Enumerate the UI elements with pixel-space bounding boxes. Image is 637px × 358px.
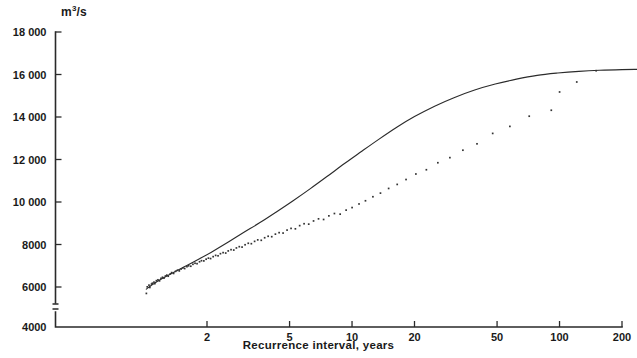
data-point (247, 242, 249, 244)
data-point (509, 126, 511, 128)
data-point (476, 143, 478, 145)
data-point (271, 236, 273, 238)
data-point (148, 284, 150, 286)
fitted-curve-path (146, 69, 637, 289)
data-point (358, 203, 360, 205)
plot-area: 40006000800010 00012 00014 00016 00018 0… (0, 0, 637, 358)
data-point (184, 268, 186, 270)
data-point (194, 262, 196, 264)
data-point (212, 256, 214, 258)
data-point (162, 276, 164, 278)
data-point (156, 280, 158, 282)
data-point (177, 269, 179, 271)
data-point (175, 270, 177, 272)
data-point (437, 162, 439, 164)
data-point (203, 260, 205, 262)
data-point (146, 286, 148, 288)
data-point (220, 253, 222, 255)
data-point (345, 209, 347, 211)
data-point (217, 255, 219, 257)
data-point (167, 275, 169, 277)
data-point (186, 266, 188, 268)
data-point (199, 261, 201, 263)
y-tick-label: 18 000 (13, 26, 47, 38)
axes (53, 32, 623, 327)
data-point (462, 149, 464, 151)
data-point (323, 219, 325, 221)
data-point (559, 91, 561, 93)
data-point (396, 184, 398, 186)
y-tick-label: 4000 (22, 321, 46, 333)
data-point (225, 252, 227, 254)
y-tick-label: 12 000 (13, 154, 47, 166)
data-point (152, 282, 154, 284)
data-point (154, 283, 156, 285)
data-point (159, 280, 161, 282)
data-point (188, 265, 190, 267)
data-point (318, 218, 320, 220)
data-point (313, 220, 315, 222)
data-point (222, 252, 224, 254)
data-point (426, 169, 428, 171)
data-point (295, 228, 297, 230)
data-point (251, 243, 253, 245)
data-point (308, 223, 310, 225)
data-point (290, 228, 292, 230)
data-point (190, 265, 192, 267)
data-point (299, 225, 301, 227)
data-point (286, 229, 288, 231)
data-point (267, 235, 269, 237)
data-point (241, 246, 243, 248)
data-point (149, 287, 151, 289)
data-point (244, 244, 246, 246)
data-point (182, 267, 184, 269)
data-point (339, 213, 341, 215)
data-point (157, 279, 159, 281)
data-point (238, 246, 240, 248)
data-point (171, 272, 173, 274)
data-point (282, 232, 284, 234)
data-point (595, 70, 597, 72)
data-point (163, 277, 165, 279)
data-point (388, 188, 390, 190)
data-point (576, 81, 578, 83)
data-point (254, 241, 256, 243)
data-point (278, 232, 280, 234)
data-point (180, 268, 182, 270)
data-point (160, 277, 162, 279)
data-point (380, 192, 382, 194)
data-point (528, 115, 530, 117)
data-point (210, 258, 212, 260)
data-point (351, 207, 353, 209)
data-point (196, 263, 198, 265)
data-point (275, 233, 277, 235)
data-point (405, 179, 407, 181)
y-tick-label: 6000 (22, 281, 46, 293)
data-point (215, 255, 217, 257)
data-point (205, 258, 207, 260)
data-point (449, 157, 451, 159)
y-tick-labels: 40006000800010 00012 00014 00016 00018 0… (13, 26, 47, 333)
data-point (415, 173, 417, 175)
data-point (334, 213, 336, 215)
data-point (173, 273, 175, 275)
data-point (492, 133, 494, 135)
data-point (230, 249, 232, 251)
data-point (257, 239, 259, 241)
y-tick-label: 16 000 (13, 69, 47, 81)
fitted-curve (146, 69, 637, 289)
data-point (192, 263, 194, 265)
data-point (201, 260, 203, 262)
data-point (365, 200, 367, 202)
y-tick-label: 14 000 (13, 111, 47, 123)
data-point (178, 270, 180, 272)
data-point (260, 239, 262, 241)
data-point (236, 247, 238, 249)
tick-marks (56, 32, 623, 327)
data-point (550, 109, 552, 111)
data-point (328, 215, 330, 217)
y-tick-label: 10 000 (13, 196, 47, 208)
x-axis-title: Recurrence interval, years (0, 339, 637, 351)
data-points (146, 70, 597, 294)
y-tick-label: 8000 (22, 239, 46, 251)
